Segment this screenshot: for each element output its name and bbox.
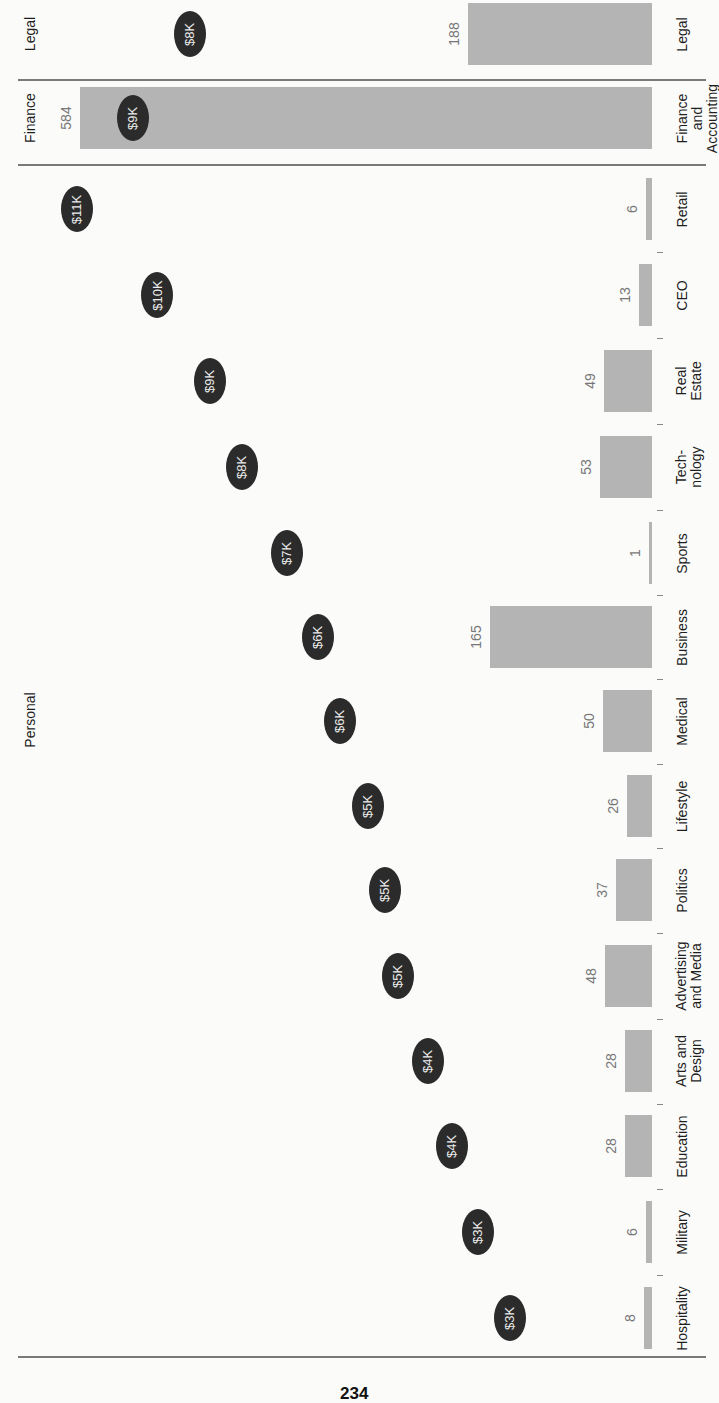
- amount-bubble-label: $4K: [420, 1049, 435, 1072]
- amount-bubble: $6K: [324, 698, 356, 744]
- bar: [649, 522, 652, 584]
- amount-bubble-label: $11K: [70, 194, 85, 223]
- amount-bubble: $10K: [141, 272, 173, 318]
- amount-bubble-label: $5K: [377, 878, 392, 901]
- amount-bubble: $11K: [61, 186, 93, 232]
- section-divider: [18, 79, 706, 81]
- amount-bubble: $7K: [271, 530, 303, 576]
- page-number: 234: [340, 1384, 368, 1403]
- axis-tick: [657, 424, 663, 425]
- bar: [616, 859, 652, 921]
- bar-value-label: 53: [578, 447, 594, 487]
- amount-bubble-label: $4K: [444, 1134, 459, 1157]
- bar-value-label: 13: [617, 275, 633, 315]
- bar-value-label: 50: [581, 701, 597, 741]
- axis-tick: [657, 1019, 663, 1020]
- bar: [603, 690, 652, 752]
- bar-value-label: 1: [627, 533, 643, 573]
- bar: [468, 3, 652, 65]
- bar: [625, 1115, 652, 1177]
- amount-bubble-label: $6K: [332, 709, 347, 732]
- bar: [604, 350, 652, 412]
- bar: [490, 606, 652, 668]
- bar-value-label: 6: [624, 189, 640, 229]
- amount-bubble-label: $5K: [360, 794, 375, 817]
- section-label: Personal: [22, 690, 38, 750]
- amount-bubble-label: $3K: [502, 1306, 517, 1329]
- amount-bubble-label: $7K: [279, 541, 294, 564]
- amount-bubble: $8K: [226, 444, 258, 490]
- bar: [600, 436, 652, 498]
- amount-bubble-label: $10K: [150, 280, 165, 310]
- bar: [646, 1201, 652, 1263]
- bar: [627, 775, 652, 837]
- bar: [605, 945, 652, 1007]
- amount-bubble-label: $8K: [234, 455, 249, 478]
- bar-value-label: 28: [603, 1041, 619, 1081]
- bar: [625, 1030, 652, 1092]
- axis-tick: [657, 510, 663, 511]
- amount-bubble: $4K: [412, 1038, 444, 1084]
- amount-bubble-label: $8K: [182, 22, 197, 45]
- bar: [646, 178, 652, 240]
- section-divider: [18, 164, 706, 166]
- bar: [639, 264, 652, 326]
- amount-bubble: $9K: [194, 358, 226, 404]
- axis-tick: [657, 1104, 663, 1105]
- amount-bubble-label: $5K: [390, 964, 405, 987]
- section-label: Legal: [22, 4, 38, 64]
- amount-bubble: $6K: [302, 614, 334, 660]
- amount-bubble-label: $3K: [470, 1220, 485, 1243]
- axis-tick: [657, 595, 663, 596]
- axis-tick: [657, 1275, 663, 1276]
- bar-value-label: 584: [58, 98, 74, 138]
- axis-tick: [657, 848, 663, 849]
- amount-bubble: $5K: [352, 783, 384, 829]
- axis-tick: [657, 679, 663, 680]
- axis-tick: [657, 764, 663, 765]
- amount-bubble-label: $6K: [310, 625, 325, 648]
- amount-bubble: $9K: [117, 95, 149, 141]
- bar-value-label: 8: [622, 1298, 638, 1338]
- bar-value-label: 49: [582, 361, 598, 401]
- axis-tick: [657, 1189, 663, 1190]
- amount-bubble: $5K: [369, 867, 401, 913]
- bar-value-label: 48: [583, 956, 599, 996]
- bar: [644, 1287, 652, 1349]
- section-label: Finance: [22, 88, 38, 148]
- amount-bubble: $4K: [436, 1123, 468, 1169]
- category-label: Hospitality: [674, 1263, 689, 1373]
- bar: [80, 87, 652, 149]
- amount-bubble-label: $9K: [125, 106, 140, 129]
- section-divider: [18, 1356, 706, 1358]
- bar-value-label: 37: [594, 870, 610, 910]
- bar-value-label: 188: [446, 14, 462, 54]
- amount-bubble-label: $9K: [202, 369, 217, 392]
- bar-value-label: 28: [603, 1126, 619, 1166]
- bar-value-label: 6: [624, 1212, 640, 1252]
- amount-bubble: $5K: [382, 953, 414, 999]
- amount-bubble: $3K: [494, 1295, 526, 1341]
- axis-tick: [657, 933, 663, 934]
- axis-tick: [657, 338, 663, 339]
- axis-tick: [657, 252, 663, 253]
- bar-value-label: 26: [605, 786, 621, 826]
- amount-bubble: $8K: [174, 11, 206, 57]
- amount-bubble: $3K: [462, 1209, 494, 1255]
- bar-value-label: 165: [468, 617, 484, 657]
